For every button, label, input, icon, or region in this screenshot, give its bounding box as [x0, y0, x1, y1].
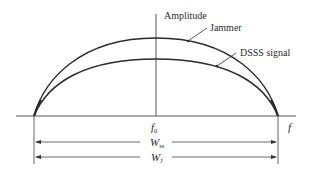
wss-dimension: Wss: [35, 136, 277, 149]
center-frequency-subscript: 0: [154, 127, 157, 134]
arrowhead-left-icon: [35, 140, 41, 144]
amplitude-label: Amplitude: [164, 10, 207, 21]
center-frequency-label: f0: [151, 121, 157, 134]
curve-right-foot: [271, 100, 278, 116]
dsss-signal-label: DSSS signal: [240, 47, 291, 58]
dsss-jammer-spectrum-diagram: Amplitude Jammer DSSS signal f f0 Wss: [0, 0, 310, 172]
curve-left-foot: [34, 100, 41, 116]
jammer-leader-dot: [187, 40, 189, 42]
frequency-axis-label: f: [288, 121, 293, 133]
arrowhead-right-icon: [271, 140, 277, 144]
arrowhead-left-icon: [35, 155, 41, 159]
jammer-label: Jammer: [210, 22, 242, 33]
wj-label: WJ: [151, 151, 163, 164]
jammer-leader-line: [188, 28, 207, 41]
wss-label: Wss: [150, 136, 165, 149]
dsss-leader-line: [217, 53, 236, 66]
wj-dimension: WJ: [35, 151, 277, 164]
arrowhead-right-icon: [271, 155, 277, 159]
dsss-leader-dot: [216, 65, 218, 67]
